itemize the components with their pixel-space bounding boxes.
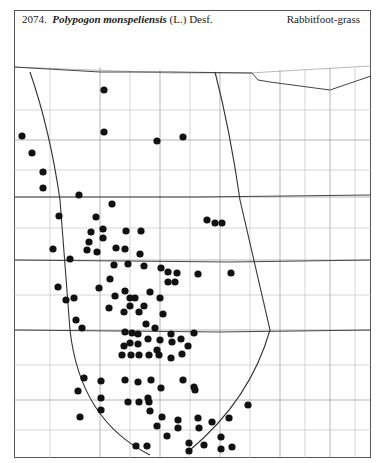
occurrence-dot <box>208 418 215 425</box>
occurrence-dot <box>177 335 184 342</box>
occurrence-dot <box>151 324 158 331</box>
occurrence-dot <box>134 378 141 385</box>
occurrence-dot <box>185 447 192 454</box>
occurrence-dot <box>92 213 99 220</box>
occurrence-dot <box>143 442 150 449</box>
occurrence-dot <box>158 413 165 420</box>
occurrence-dot <box>126 339 133 346</box>
occurrence-dot <box>142 320 149 327</box>
occurrence-dot <box>55 212 62 219</box>
occurrence-dot <box>140 262 147 269</box>
occurrence-dot <box>128 329 135 336</box>
occurrence-dot <box>112 244 119 251</box>
occurrence-dot <box>99 225 106 232</box>
occurrence-dot <box>157 264 164 271</box>
occurrence-dot <box>49 245 56 252</box>
occurrence-dot <box>135 398 142 405</box>
occurrence-dot <box>164 268 171 275</box>
occurrence-dot <box>155 351 162 358</box>
occurrence-dot <box>147 376 154 383</box>
occurrence-dot <box>178 350 185 357</box>
occurrence-dot <box>76 413 83 420</box>
occurrence-dot <box>100 128 107 135</box>
occurrence-dot <box>146 288 153 295</box>
occurrence-dot <box>179 376 186 383</box>
occurrence-dot <box>100 86 107 93</box>
occurrence-dot <box>126 294 133 301</box>
occurrence-dot <box>122 227 129 234</box>
occurrence-dot <box>194 270 201 277</box>
occurrence-dot <box>39 168 46 175</box>
occurrence-dot <box>167 354 174 361</box>
occurrence-dots <box>18 86 251 454</box>
occurrence-dot <box>39 184 46 191</box>
occurrence-dot <box>126 302 133 309</box>
occurrence-dot <box>146 407 153 414</box>
occurrence-dot <box>218 219 225 226</box>
occurrence-dot <box>168 338 175 345</box>
occurrence-dot <box>74 387 81 394</box>
occurrence-dot <box>95 284 102 291</box>
occurrence-dot <box>191 386 198 393</box>
occurrence-dot <box>110 261 117 268</box>
occurrence-dot <box>174 416 181 423</box>
occurrence-dot <box>244 401 251 408</box>
occurrence-dot <box>140 302 147 309</box>
occurrence-dot <box>97 394 104 401</box>
occurrence-dot <box>97 406 104 413</box>
occurrence-dot <box>194 414 201 421</box>
occurrence-dot <box>121 376 128 383</box>
occurrence-dot <box>118 351 125 358</box>
occurrence-dot <box>75 191 82 198</box>
occurrence-dot <box>157 384 164 391</box>
occurrence-dot <box>132 442 139 449</box>
distribution-map <box>0 0 380 463</box>
occurrence-dot <box>121 245 128 252</box>
occurrence-dot <box>83 246 90 253</box>
occurrence-dot <box>70 294 77 301</box>
occurrence-dot <box>28 149 35 156</box>
occurrence-dot <box>80 374 87 381</box>
occurrence-dot <box>153 137 160 144</box>
occurrence-dot <box>127 351 134 358</box>
occurrence-dot <box>217 433 224 440</box>
occurrence-dot <box>185 439 192 446</box>
occurrence-dot <box>217 445 224 452</box>
occurrence-dot <box>137 227 144 234</box>
occurrence-dot <box>163 432 170 439</box>
occurrence-dot <box>85 238 92 245</box>
occurrence-dot <box>136 250 143 257</box>
occurrence-dot <box>99 234 106 241</box>
occurrence-dot <box>173 269 180 276</box>
occurrence-dot <box>159 310 166 317</box>
occurrence-dot <box>156 336 163 343</box>
occurrence-dot <box>121 287 128 294</box>
occurrence-dot <box>225 414 232 421</box>
occurrence-dot <box>62 296 69 303</box>
occurrence-dot <box>78 324 85 331</box>
occurrence-dot <box>145 351 152 358</box>
occurrence-dot <box>195 424 202 431</box>
occurrence-dot <box>211 219 218 226</box>
occurrence-dot <box>93 248 100 255</box>
occurrence-dot <box>124 260 131 267</box>
occurrence-dot <box>97 377 104 384</box>
occurrence-dot <box>120 308 127 315</box>
occurrence-dot <box>145 398 152 405</box>
occurrence-dot <box>72 316 79 323</box>
occurrence-dot <box>108 200 115 207</box>
occurrence-dot <box>164 278 171 285</box>
occurrence-dot <box>106 275 113 282</box>
occurrence-dot <box>144 335 151 342</box>
occurrence-dot <box>111 292 118 299</box>
occurrence-dot <box>105 304 112 311</box>
occurrence-dot <box>174 424 181 431</box>
occurrence-dot <box>135 351 142 358</box>
occurrence-dot <box>87 228 94 235</box>
occurrence-dot <box>228 443 235 450</box>
occurrence-dot <box>124 398 131 405</box>
occurrence-dot <box>134 340 141 347</box>
occurrence-dot <box>153 422 160 429</box>
occurrence-dot <box>171 278 178 285</box>
occurrence-dot <box>167 330 174 337</box>
